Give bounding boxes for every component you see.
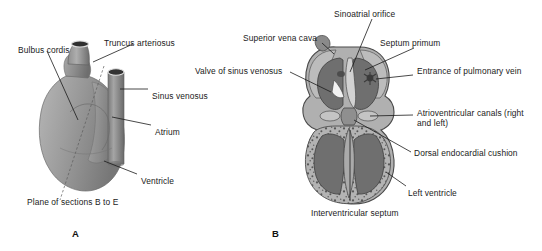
- label-valve-of-sinus-venosus: Valve of sinus venosus: [195, 66, 282, 76]
- label-entrance-of-pulmonary-vein: Entrance of pulmonary vein: [417, 66, 537, 76]
- label-septum-primum: Septum primum: [380, 38, 440, 48]
- label-atrioventricular-canals: Atrioventricular canals (right and left): [417, 108, 537, 128]
- right-atrioventricular-canal: [320, 111, 340, 121]
- label-bulbus-cordis: Bulbus cordis: [18, 45, 70, 55]
- label-interventricular-septum: Interventricular septum: [311, 208, 398, 218]
- sinus-venosus-lumen: [108, 69, 124, 75]
- dorsal-endocardial-cushion-shape: [341, 108, 357, 125]
- label-plane-of-sections: Plane of sections B to E: [27, 197, 118, 207]
- panel-a-artwork: [39, 41, 151, 200]
- panel-letter-b: B: [272, 228, 279, 239]
- sinoatrial-orifice-shape: [337, 71, 345, 77]
- label-dorsal-endocardial-cushion: Dorsal endocardial cushion: [414, 148, 534, 158]
- label-sinoatrial-orifice: Sinoatrial orifice: [334, 9, 395, 19]
- label-left-ventricle: Left ventricle: [408, 188, 457, 198]
- label-sinus-venosus: Sinus venosus: [152, 91, 208, 101]
- label-superior-vena-cava: Superior vena cava: [243, 33, 317, 43]
- label-truncus-arteriosus: Truncus arteriosus: [104, 38, 175, 48]
- label-ventricle: Ventricle: [141, 176, 174, 186]
- embryonic-heart-figure: Bulbus cordis Truncus arteriosus Sinus v…: [0, 0, 542, 251]
- label-atrium: Atrium: [155, 127, 180, 137]
- panel-letter-a: A: [72, 228, 79, 239]
- truncus-lumen: [72, 41, 89, 47]
